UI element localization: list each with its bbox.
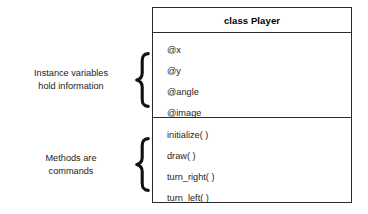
method-row: turn_right( ) (167, 167, 351, 188)
attribute-row: @angle (167, 82, 351, 103)
annotation-methods-line1: Methods are (12, 152, 130, 165)
method-row: draw( ) (167, 146, 351, 167)
left-curly-brace-icon (135, 52, 151, 108)
methods-compartment: initialize( ) draw( ) turn_right( ) turn… (153, 118, 351, 202)
annotation-methods-line2: commands (12, 165, 130, 178)
attributes-compartment: @x @y @angle @image (153, 33, 351, 118)
annotation-instance-variables-line2: hold information (12, 80, 130, 93)
annotation-methods: Methods are commands (12, 137, 151, 192)
method-row: initialize( ) (167, 125, 351, 146)
attribute-row: @x (167, 40, 351, 61)
annotation-methods-text: Methods are commands (12, 152, 130, 178)
annotation-instance-variables: Instance variables hold information (12, 52, 151, 108)
class-name-label: class Player (224, 15, 280, 26)
left-curly-brace-icon (135, 137, 151, 192)
attribute-row: @y (167, 61, 351, 82)
class-box: class Player @x @y @angle @image initial… (152, 7, 352, 203)
class-box-header: class Player (153, 8, 351, 33)
annotation-instance-variables-line1: Instance variables (12, 67, 130, 80)
uml-class-diagram: Instance variables hold information Meth… (0, 0, 368, 214)
method-row: turn_left( ) (167, 188, 351, 209)
annotation-instance-variables-text: Instance variables hold information (12, 67, 130, 93)
